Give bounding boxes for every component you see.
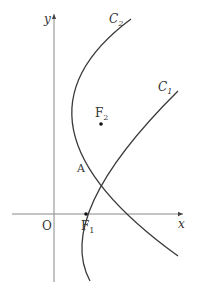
focus-f1-label: F1: [81, 219, 94, 235]
focus-f2-point: [99, 122, 103, 126]
x-axis-label: x: [178, 217, 185, 231]
y-axis-label: y: [43, 12, 51, 26]
focus-f2-label: F2: [95, 106, 108, 122]
parabola-diagram: y x O C2 C1 F2 F1 A: [0, 0, 197, 292]
curve-c1-label: C1: [158, 80, 172, 96]
curve-c2-label: C2: [109, 12, 123, 28]
origin-label: O: [42, 219, 52, 233]
focus-f1-point: [84, 212, 88, 216]
point-a-label: A: [76, 162, 86, 175]
